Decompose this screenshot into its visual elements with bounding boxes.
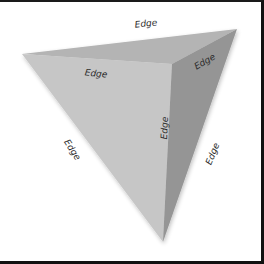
tetrahedron-diagram: EdgeEdgeEdgeEdgeEdgeEdge: [0, 2, 264, 264]
edge-label-vertical: Edge: [159, 116, 170, 139]
edge-label-top-back: Edge: [134, 17, 158, 29]
edge-label-right: Edge: [204, 141, 222, 166]
edge-label-left: Edge: [62, 138, 83, 163]
front-left-face: [22, 54, 172, 242]
diagram-frame: EdgeEdgeEdgeEdgeEdgeEdge: [0, 0, 264, 264]
